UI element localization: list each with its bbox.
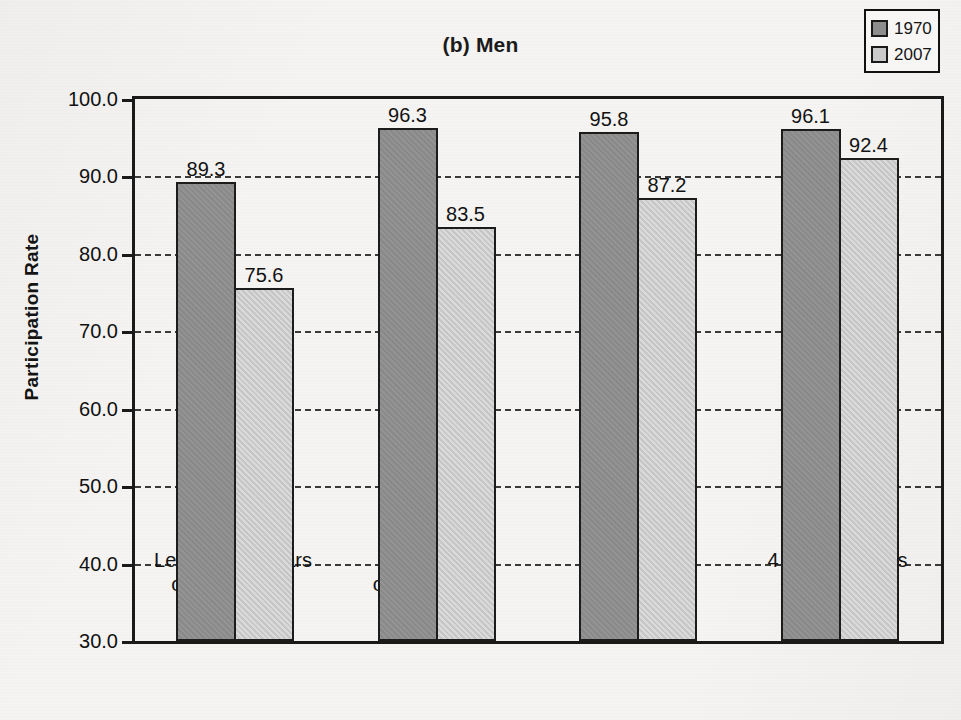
bar-value-label: 95.8 (590, 108, 629, 131)
y-axis-tick (122, 99, 135, 102)
y-axis-tick-label: 30.0 (79, 630, 118, 653)
y-axis-tick (122, 409, 135, 412)
legend-swatch-1970 (871, 20, 888, 37)
bar-2007-group-1[interactable]: 75.6 (234, 288, 294, 641)
y-axis-tick (122, 176, 135, 179)
y-axis-tick-label: 70.0 (79, 320, 118, 343)
y-axis-tick (122, 254, 135, 257)
y-axis-tick (122, 486, 135, 489)
bar-value-label: 89.3 (187, 158, 226, 181)
legend-label-1970: 1970 (894, 20, 932, 37)
bar-1970-group-3[interactable]: 95.8 (579, 132, 639, 641)
bar-1970-group-1[interactable]: 89.3 (176, 182, 236, 641)
bar-2007-group-4[interactable]: 92.4 (839, 158, 899, 641)
bar-value-label: 87.2 (648, 174, 687, 197)
bar-2007-group-2[interactable]: 83.5 (436, 227, 496, 641)
bar-value-label: 75.6 (245, 264, 284, 287)
legend-label-2007: 2007 (894, 46, 932, 63)
y-axis-tick (122, 331, 135, 334)
chart-legend: 1970 2007 (864, 9, 940, 73)
bar-1970-group-2[interactable]: 96.3 (378, 128, 438, 641)
legend-item-1970[interactable]: 1970 (871, 15, 933, 41)
bar-value-label: 83.5 (446, 203, 485, 226)
y-axis-tick-label: 100.0 (68, 88, 118, 111)
y-axis-tick-label: 80.0 (79, 242, 118, 265)
y-axis-tick-label: 60.0 (79, 397, 118, 420)
bar-value-label: 96.3 (388, 104, 427, 127)
bar-2007-group-3[interactable]: 87.2 (637, 198, 697, 641)
legend-item-2007[interactable]: 2007 (871, 41, 933, 67)
legend-swatch-2007 (871, 46, 888, 63)
y-axis-title: Participation Rate (21, 207, 43, 427)
bar-value-label: 92.4 (849, 134, 888, 157)
bar-chart: (b) Men 1970 2007 Participation Rate 100… (0, 0, 961, 720)
y-axis-tick-label: 50.0 (79, 475, 118, 498)
y-axis-tick (122, 641, 135, 644)
bar-1970-group-4[interactable]: 96.1 (781, 129, 841, 641)
y-axis-tick-label: 90.0 (79, 165, 118, 188)
y-axis-tick-label: 40.0 (79, 552, 118, 575)
chart-title: (b) Men (0, 33, 961, 57)
bar-value-label: 96.1 (791, 105, 830, 128)
